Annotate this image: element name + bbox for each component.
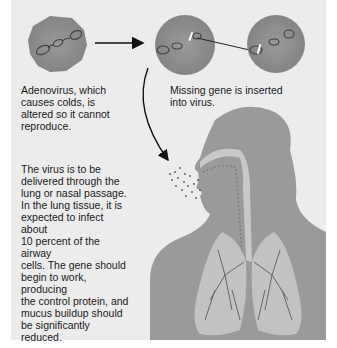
- adenovirus-caption: Adenovirus, which causes colds, is alter…: [21, 84, 131, 132]
- human-silhouette: [150, 107, 326, 340]
- curved-arrow-icon: [143, 68, 168, 160]
- virus-1-icon: [28, 16, 87, 72]
- virus-2-icon: [155, 15, 215, 75]
- virus-3-icon: [247, 15, 305, 73]
- spray-icon: [169, 167, 201, 199]
- delivery-caption: The virus is to be delivered through the…: [21, 163, 131, 343]
- gene-insertion-caption: Missing gene is inserted into virus.: [170, 84, 320, 108]
